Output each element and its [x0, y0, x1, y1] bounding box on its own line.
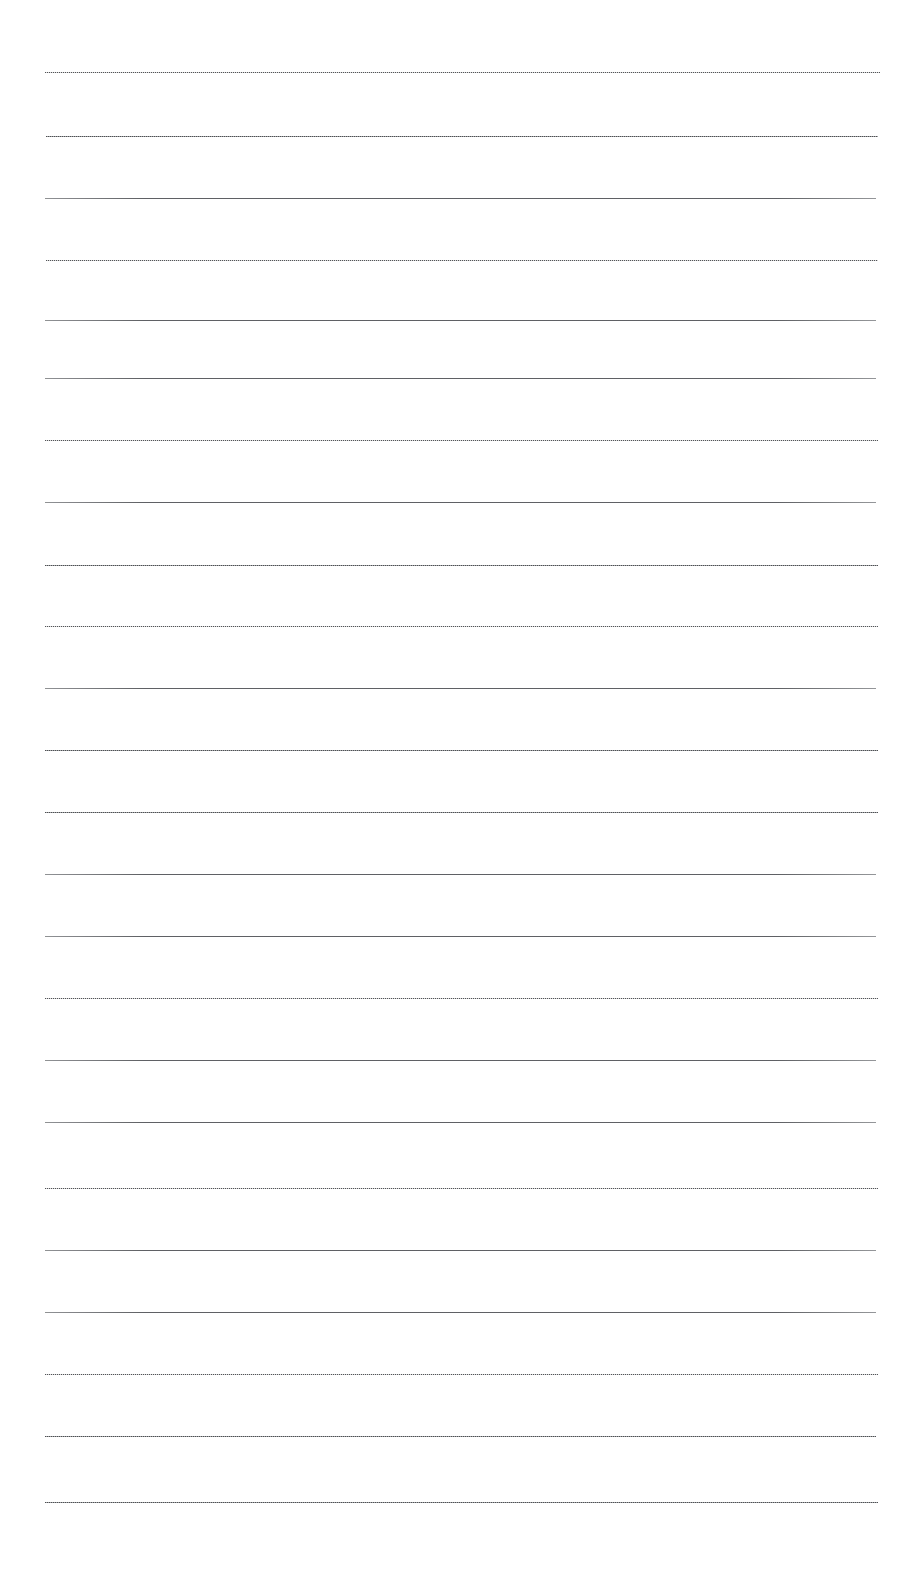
rule-line: [45, 1374, 878, 1375]
rule-line: [45, 198, 876, 199]
ruled-lines-layer: [0, 0, 920, 1579]
rule-line: [45, 440, 878, 441]
rule-line: [45, 626, 878, 627]
rule-line: [45, 565, 878, 566]
rule-line: [45, 72, 880, 73]
rule-line: [46, 136, 878, 137]
rule-line: [45, 936, 876, 937]
rule-line: [45, 812, 878, 813]
rule-line: [45, 1502, 878, 1503]
rule-line: [45, 750, 878, 751]
rule-line: [45, 320, 876, 321]
rule-line: [45, 1312, 876, 1313]
rule-line: [45, 874, 876, 875]
page-canvas: [0, 0, 920, 1579]
rule-line: [45, 1436, 876, 1437]
rule-line: [45, 688, 876, 689]
rule-line: [45, 378, 876, 379]
rule-line: [45, 1060, 876, 1061]
rule-line: [46, 260, 878, 261]
rule-line: [45, 1188, 878, 1189]
rule-line: [45, 1250, 876, 1251]
rule-line: [45, 1122, 876, 1123]
rule-line: [45, 998, 878, 999]
rule-line: [45, 502, 876, 503]
